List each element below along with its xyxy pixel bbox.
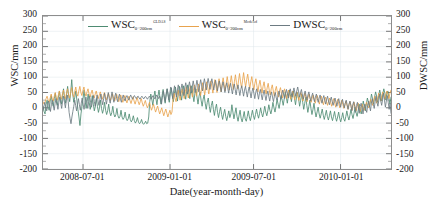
y-tick-label-right: 250 [396,26,410,36]
y-tick-label-right: 150 [396,57,410,67]
y-axis-right-label: DWSC/mm [418,31,429,101]
y-tick-label-right: 300 [396,10,410,20]
x-tick-label: 2010-01-01 [319,173,363,183]
plot-svg [43,16,391,169]
y-tick-label-left: 200 [23,41,37,51]
x-tick-label: 2008-07-01 [60,173,104,183]
y-tick-label-left: -150 [20,150,37,160]
legend-item[interactable]: DWSC0~200cm [270,19,342,32]
y-tick-label-left: 100 [23,72,37,82]
y-tick-label-left: 150 [23,57,37,67]
y-tick-label-left: -50 [24,119,37,129]
x-tick-label: 2009-01-01 [148,173,192,183]
y-tick-label-left: 300 [23,10,37,20]
legend-label-subscript: 0~200cm [135,26,152,31]
y-tick-label-left: 0 [32,103,37,113]
y-tick-label-left: 50 [28,88,38,98]
legend-label: WSC0~200cmModeled [202,19,257,33]
plot-area [42,15,392,170]
x-tick-label: 2009-07-01 [232,173,276,183]
legend-item[interactable]: WSC0~200cmGLDAS [88,19,165,33]
legend-label: WSC0~200cmGLDAS [111,19,165,33]
y-tick-label-right: 0 [396,103,401,113]
y-tick-label-left: -200 [20,165,37,175]
legend-label: DWSC0~200cm [293,19,342,32]
x-axis-label: Date(year-month-day) [0,186,433,197]
legend-label-subscript: 0~200cm [225,26,242,31]
y-tick-label-left: 250 [23,26,37,36]
y-tick-label-right: -150 [396,150,413,160]
y-tick-label-right: 200 [396,41,410,51]
legend-label-superscript: GLDAS [153,20,165,24]
y-tick-label-right: 50 [396,88,406,98]
y-tick-label-right: -50 [396,119,409,129]
legend-label-subscript: 0~200cm [325,26,342,31]
legend-label-superscript: Modeled [244,20,257,24]
y-tick-label-left: -100 [20,134,37,144]
legend-swatch-line [88,26,108,27]
legend-swatch-line [270,25,290,26]
legend-swatch-line [179,26,199,27]
series-line [43,78,391,123]
y-tick-label-right: -200 [396,165,413,175]
y-axis-left-label: WSC/mm [9,31,20,101]
chart-figure: 300250200150100500-50-100-150-200 300250… [0,0,433,207]
y-tick-label-right: 100 [396,72,410,82]
y-tick-label-right: -100 [396,134,413,144]
chart-legend: WSC0~200cmGLDASWSC0~200cmModeledDWSC0~20… [88,19,342,33]
legend-item[interactable]: WSC0~200cmModeled [179,19,257,33]
